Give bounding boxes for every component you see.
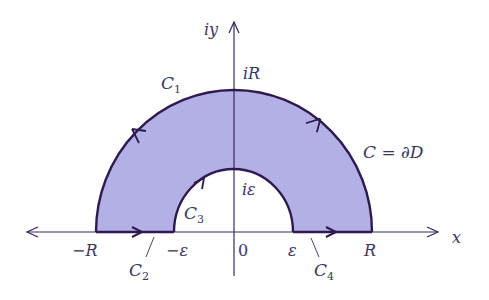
contour-diagram: iy x iR iε −R −ε 0 ε R C1 C2 C3 C4 C = ∂… bbox=[0, 0, 489, 300]
label-boundary: C = ∂D bbox=[363, 142, 424, 162]
y-axis-label: iy bbox=[204, 20, 219, 39]
label-minus-epsilon: −ε bbox=[166, 241, 188, 260]
label-minus-R: −R bbox=[72, 241, 97, 260]
label-iR: iR bbox=[243, 64, 260, 83]
x-axis-label: x bbox=[452, 228, 461, 247]
pointer-c2 bbox=[146, 237, 154, 257]
pointer-c4 bbox=[311, 238, 319, 257]
label-i-epsilon: iε bbox=[242, 180, 256, 199]
label-epsilon: ε bbox=[288, 241, 297, 260]
label-c1: C1 bbox=[161, 73, 181, 96]
label-c2: C2 bbox=[129, 260, 149, 283]
label-c4: C4 bbox=[314, 260, 334, 283]
label-origin: 0 bbox=[238, 241, 248, 260]
label-c3: C3 bbox=[184, 203, 204, 226]
label-R: R bbox=[363, 241, 376, 260]
